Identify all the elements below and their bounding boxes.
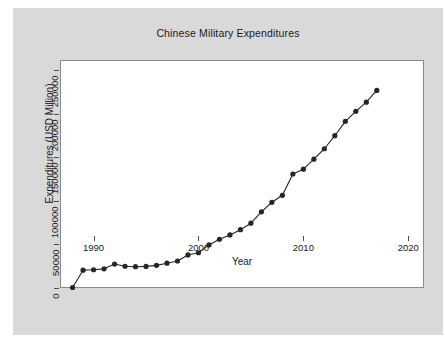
- chart-screenshot: Chinese Military Expenditures Expenditur…: [0, 0, 445, 342]
- data-point: [269, 200, 274, 205]
- y-tick-mark: [54, 244, 59, 245]
- data-point: [80, 268, 85, 273]
- data-point: [227, 232, 232, 237]
- data-point: [311, 157, 316, 162]
- data-point: [280, 193, 285, 198]
- data-point: [332, 133, 337, 138]
- data-point: [217, 237, 222, 242]
- data-series-layer: [60, 60, 424, 288]
- data-point: [259, 209, 264, 214]
- data-point: [70, 285, 75, 290]
- chart-title: Chinese Military Expenditures: [13, 27, 443, 39]
- data-point: [206, 242, 211, 247]
- data-point: [322, 146, 327, 151]
- y-tick-label: 150000: [50, 163, 61, 195]
- data-point: [238, 227, 243, 232]
- y-tick-label: 100000: [50, 206, 61, 238]
- y-tick-mark: [54, 288, 59, 289]
- y-tick-mark: [54, 70, 59, 71]
- figure-canvas: Chinese Military Expenditures Expenditur…: [13, 8, 443, 335]
- y-tick-mark: [54, 201, 59, 202]
- y-tick-mark: [54, 157, 59, 158]
- y-tick-label: 200000: [50, 119, 61, 151]
- y-tick-label: 50000: [50, 250, 61, 276]
- x-axis-label: Year: [60, 256, 424, 267]
- data-point: [196, 250, 201, 255]
- data-point: [290, 171, 295, 176]
- data-point: [343, 119, 348, 124]
- y-tick-mark: [54, 114, 59, 115]
- data-point: [301, 167, 306, 172]
- data-point: [248, 221, 253, 226]
- data-point: [91, 267, 96, 272]
- data-point: [353, 109, 358, 114]
- data-point: [101, 266, 106, 271]
- y-tick-label: 0: [50, 294, 61, 299]
- data-point: [374, 88, 379, 93]
- data-point: [364, 100, 369, 105]
- y-tick-label: 250000: [50, 76, 61, 108]
